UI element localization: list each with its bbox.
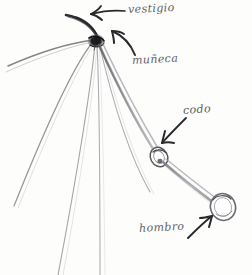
humerus-bone xyxy=(164,159,217,206)
finger-bone-4 xyxy=(97,43,105,275)
label-hombro: hombro xyxy=(139,220,185,235)
arrow-codo xyxy=(162,118,186,143)
arrow-vestigio xyxy=(91,6,125,20)
arrow-hombro xyxy=(188,216,212,238)
sketch-page: vestigio muñeca codo hombro xyxy=(0,0,252,275)
label-muneca: muñeca xyxy=(132,52,179,67)
finger-bones-group xyxy=(6,40,154,275)
arrow-muneca xyxy=(112,31,135,55)
label-vestigio: vestigio xyxy=(128,1,175,16)
label-codo: codo xyxy=(183,102,212,117)
finger-bone-2 xyxy=(14,42,95,208)
finger-bone-3 xyxy=(58,43,97,275)
sketch-drawing xyxy=(0,0,252,275)
